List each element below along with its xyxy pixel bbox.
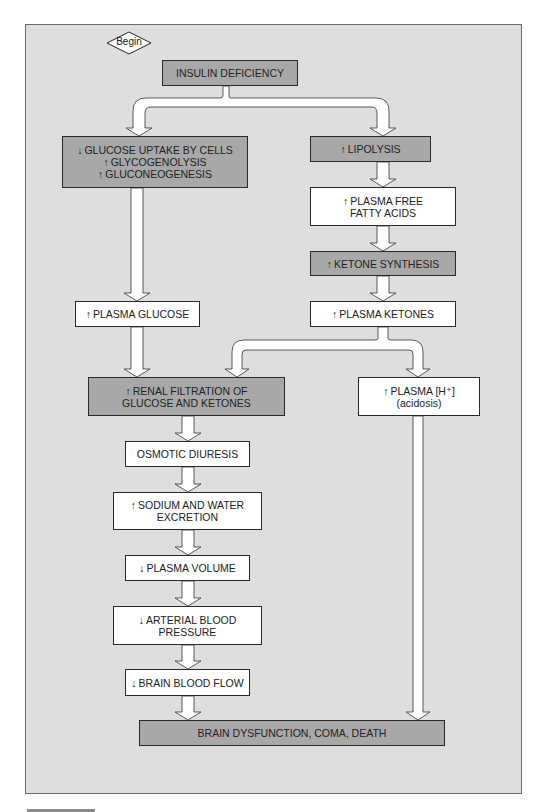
node-glucose-uptake: GLUCOSE UPTAKE BY CELLS GLYCOGENOLYSIS G… [62,136,248,188]
node-label: BRAIN BLOOD FLOW [131,677,243,689]
node-lipolysis: LIPOLYSIS [310,136,431,162]
node-label: GLYCOGENOLYSIS [103,156,206,168]
node-brain-dysfunction: BRAIN DYSFUNCTION, COMA, DEATH [139,720,445,746]
node-plasma-ffa: PLASMA FREE FATTY ACIDS [310,187,456,226]
node-label: PLASMA KETONES [332,308,434,320]
begin-label: Begin [107,36,151,47]
node-label: GLUCOSE UPTAKE BY CELLS [77,144,233,156]
node-renal-filtration: RENAL FILTRATION OF GLUCOSE AND KETONES [88,377,285,416]
node-label: RENAL FILTRATION OF [126,385,248,397]
node-plasma-ketones: PLASMA KETONES [310,301,456,327]
node-label: SODIUM AND WATER [131,499,244,511]
node-osmotic-diuresis: OSMOTIC DIURESIS [125,441,250,467]
node-label: GLUCONEOGENESIS [98,168,212,180]
node-label: LIPOLYSIS [340,143,400,155]
node-label: PLASMA [H⁺] [383,385,455,397]
node-label: INSULIN DEFICIENCY [176,67,284,79]
node-label: PRESSURE [159,626,217,638]
node-plasma-volume: PLASMA VOLUME [125,555,250,581]
node-label: PLASMA GLUCOSE [86,308,190,320]
node-label: GLUCOSE AND KETONES [122,397,251,409]
node-ketone-synthesis: KETONE SYNTHESIS [310,251,456,276]
node-brain-blood-flow: BRAIN BLOOD FLOW [125,669,250,696]
node-label: ARTERIAL BLOOD [139,614,237,626]
node-plasma-glucose: PLASMA GLUCOSE [75,301,200,327]
node-label: PLASMA FREE [343,195,423,207]
node-label: OSMOTIC DIURESIS [137,448,239,460]
node-label: KETONE SYNTHESIS [327,258,440,270]
node-sodium-water: SODIUM AND WATER EXCRETION [113,492,262,530]
node-label: BRAIN DYSFUNCTION, COMA, DEATH [198,727,387,739]
node-plasma-h: PLASMA [H⁺] (acidosis) [358,377,480,416]
node-arterial-bp: ARTERIAL BLOOD PRESSURE [113,606,262,645]
node-label: EXCRETION [157,511,218,523]
node-label: (acidosis) [397,397,442,409]
node-label: PLASMA VOLUME [139,562,236,574]
node-insulin-deficiency: INSULIN DEFICIENCY [162,60,298,86]
node-label: FATTY ACIDS [350,207,416,219]
